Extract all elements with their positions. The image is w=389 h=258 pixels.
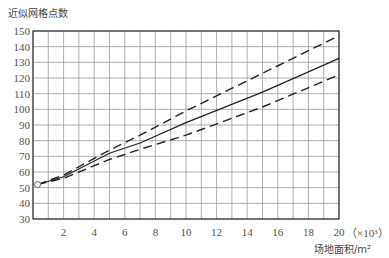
- x-tick-label: 16: [272, 226, 284, 238]
- x-tick-label: 10: [181, 226, 193, 238]
- x-unit-note: （×10³）: [346, 227, 389, 239]
- series-line-upper-bound: [38, 36, 339, 185]
- y-tick-label: 60: [19, 166, 31, 178]
- x-tick-label: 18: [303, 226, 315, 238]
- x-tick-label: 2: [61, 226, 67, 238]
- x-axis-title: 场地面积/m²: [314, 243, 371, 255]
- grid: [33, 31, 339, 219]
- x-tick-label: 8: [153, 226, 159, 238]
- y-tick-label: 80: [19, 135, 31, 147]
- y-tick-label: 70: [19, 150, 31, 162]
- y-tick-label: 120: [14, 72, 31, 84]
- y-axis-title: 近似网格点数: [8, 7, 68, 19]
- y-tick-label: 50: [19, 182, 31, 194]
- y-tick-label: 30: [19, 213, 31, 225]
- line-chart: 30405060708090100110120130140150 2468101…: [0, 0, 389, 258]
- series-line-lower-bound: [38, 75, 339, 185]
- y-tick-label: 40: [19, 197, 31, 209]
- y-tick-label: 110: [14, 88, 31, 100]
- y-tick-label: 140: [14, 41, 31, 53]
- y-tick-label: 100: [14, 103, 31, 115]
- x-axis-ticks: 2468101214161820: [61, 226, 345, 238]
- x-tick-label: 6: [122, 226, 128, 238]
- y-tick-label: 150: [14, 25, 31, 37]
- x-tick-label: 20: [334, 226, 346, 238]
- y-tick-label: 90: [19, 119, 31, 131]
- x-tick-label: 4: [91, 226, 97, 238]
- start-point-marker: [35, 182, 41, 188]
- y-axis-ticks: 30405060708090100110120130140150: [14, 25, 31, 225]
- x-tick-label: 14: [242, 226, 254, 238]
- series-line-approximation: [38, 58, 339, 184]
- x-tick-label: 12: [211, 226, 222, 238]
- y-tick-label: 130: [14, 56, 31, 68]
